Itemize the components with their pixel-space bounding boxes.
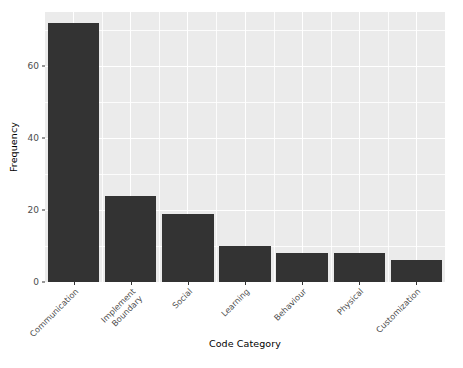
- grid-line-major-vertical: [416, 12, 417, 282]
- bar: [105, 196, 156, 282]
- bar: [391, 260, 442, 282]
- x-axis-tick-mark: [131, 282, 132, 285]
- y-axis-tick-label: 0: [13, 277, 39, 287]
- x-axis-tick-mark: [74, 282, 75, 285]
- bar-chart: Frequency 0204060 CommunicationImplement…: [0, 0, 463, 368]
- x-axis: CommunicationImplementBoundarySocialLear…: [45, 282, 445, 334]
- x-axis-tick-mark: [188, 282, 189, 285]
- plot-panel: [45, 12, 445, 282]
- bar: [219, 246, 270, 282]
- grid-line-major-vertical: [359, 12, 360, 282]
- grid-line-minor-vertical: [331, 12, 332, 282]
- y-axis-tick-label: 60: [13, 61, 39, 71]
- grid-line-minor-vertical: [274, 12, 275, 282]
- x-axis-tick-mark: [302, 282, 303, 285]
- grid-line-minor-vertical: [159, 12, 160, 282]
- bar: [48, 23, 99, 282]
- y-axis: 0204060: [14, 0, 45, 368]
- x-axis-tick-mark: [359, 282, 360, 285]
- grid-line-minor-vertical: [216, 12, 217, 282]
- grid-line-major-vertical: [302, 12, 303, 282]
- bar: [162, 214, 213, 282]
- y-axis-tick-label: 20: [13, 205, 39, 215]
- x-axis-tick-mark: [416, 282, 417, 285]
- grid-line-minor-vertical: [388, 12, 389, 282]
- bar: [334, 253, 385, 282]
- grid-line-minor-vertical: [102, 12, 103, 282]
- grid-line-major-vertical: [245, 12, 246, 282]
- x-axis-tick-mark: [245, 282, 246, 285]
- y-axis-tick-label: 40: [13, 133, 39, 143]
- bar: [276, 253, 327, 282]
- x-axis-title: Code Category: [45, 338, 445, 349]
